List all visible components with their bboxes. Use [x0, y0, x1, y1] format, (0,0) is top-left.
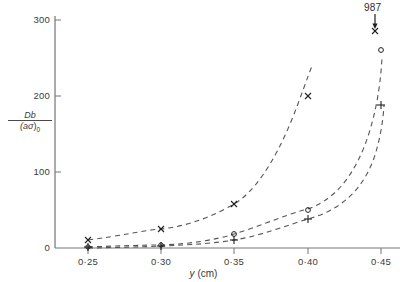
circle-series-curve — [88, 57, 382, 247]
y-axis-title-numerator: Db — [8, 110, 52, 121]
annotation-987-label: 987 — [364, 2, 381, 13]
y-tick-label-0: 0 — [10, 242, 50, 253]
x-tick-label-030: 0·30 — [141, 256, 181, 267]
marker-plus — [84, 243, 92, 251]
y-axis-ticks — [55, 20, 61, 172]
plus-series-markers — [84, 101, 385, 251]
y-tick-label-100: 100 — [10, 166, 50, 177]
x-axis-title-units: (cm) — [195, 268, 218, 279]
plus-series-curve — [88, 105, 384, 248]
annotation-987-pointer — [372, 14, 378, 34]
marker-plus — [377, 101, 385, 109]
y-axis-title: Db (aσ)0 — [8, 110, 52, 134]
marker-plus — [304, 215, 312, 223]
marker-x — [231, 201, 237, 207]
y-tick-label-200: 200 — [10, 90, 50, 101]
x-tick-label-045: 0·45 — [361, 256, 401, 267]
y-axis-title-den-open: (a — [20, 121, 28, 131]
scatter-plot-canvas — [0, 0, 407, 282]
x-tick-label-035: 0·35 — [214, 256, 254, 267]
circle-series-markers — [86, 48, 384, 250]
y-tick-label-300: 300 — [10, 14, 50, 25]
axis-lines — [55, 16, 400, 248]
x-axis-ticks — [88, 248, 381, 254]
x-tick-label-040: 0·40 — [288, 256, 328, 267]
cross-series-curve — [88, 66, 312, 240]
chart-figure: 300 200 100 0 0·25 0·30 0·35 0·40 0·45 D… — [0, 0, 407, 282]
x-tick-label-025: 0·25 — [68, 256, 108, 267]
marker-circle — [379, 48, 384, 53]
marker-plus — [157, 242, 165, 250]
y-axis-title-denominator: (aσ)0 — [8, 121, 52, 133]
x-axis-title: y (cm) — [0, 268, 407, 279]
marker-x — [305, 93, 311, 99]
y-axis-title-den-subscript: 0 — [36, 126, 40, 133]
marker-plus — [230, 236, 238, 244]
